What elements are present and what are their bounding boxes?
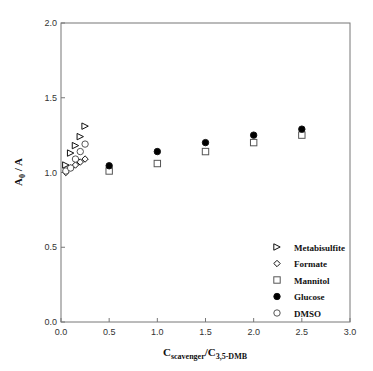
data-points (63, 123, 305, 176)
dmso-marker-icon (72, 156, 78, 162)
glucose-legend-marker-icon (274, 293, 280, 299)
legend-label-glucose: Glucose (294, 292, 325, 302)
scatter-chart: 0.00.51.01.52.02.53.00.00.51.01.52.0 Met… (0, 0, 373, 371)
x-tick-label: 1.5 (199, 327, 212, 337)
x-tick-label: 0.0 (55, 327, 68, 337)
series-mannitol (106, 132, 305, 174)
x-tick-label: 1.0 (151, 327, 164, 337)
y-tick-label: 1.0 (44, 168, 57, 178)
y-tick-label: 1.5 (44, 93, 57, 103)
legend-label-mannitol: Mannitol (294, 276, 330, 286)
x-tick-label: 2.5 (296, 327, 309, 337)
legend: MetabisulfiteFormateMannitolGlucoseDMSO (274, 243, 345, 319)
mannitol-marker-icon (250, 139, 256, 145)
x-tick-label: 3.0 (344, 327, 357, 337)
dmso-marker-icon (77, 148, 83, 154)
metabisulfite-legend-marker-icon (274, 244, 280, 250)
glucose-marker-icon (250, 132, 256, 138)
glucose-marker-icon (299, 126, 305, 132)
y-tick-label: 0.0 (44, 317, 57, 327)
mannitol-legend-marker-icon (274, 277, 280, 283)
mannitol-marker-icon (202, 148, 208, 154)
series-glucose (106, 126, 305, 169)
y-tick-label: 0.5 (44, 242, 57, 252)
glucose-marker-icon (154, 148, 160, 154)
y-axis-title: A0 / A (12, 158, 27, 186)
glucose-marker-icon (106, 163, 112, 169)
plot-axes: 0.00.51.01.52.02.53.00.00.51.01.52.0 (44, 18, 356, 337)
x-tick-label: 0.5 (103, 327, 116, 337)
metabisulfite-marker-icon (82, 123, 88, 129)
mannitol-marker-icon (154, 160, 160, 166)
metabisulfite-marker-icon (77, 133, 83, 139)
metabisulfite-marker-icon (72, 142, 78, 148)
dmso-marker-icon (82, 141, 88, 147)
y-tick-label: 2.0 (44, 18, 57, 28)
glucose-marker-icon (202, 139, 208, 145)
mannitol-marker-icon (299, 132, 305, 138)
x-axis-title: Cscavenger/C3,5-DMB (163, 346, 248, 361)
metabisulfite-marker-icon (67, 150, 73, 156)
legend-label-dmso: DMSO (294, 309, 321, 319)
dmso-legend-marker-icon (274, 310, 280, 316)
formate-legend-marker-icon (274, 260, 280, 266)
legend-label-metabisulfite: Metabisulfite (294, 243, 345, 253)
x-tick-label: 2.0 (247, 327, 260, 337)
legend-label-formate: Formate (294, 259, 327, 269)
